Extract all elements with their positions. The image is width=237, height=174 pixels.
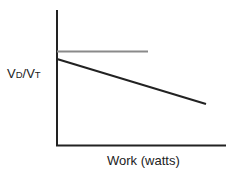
y-axis-label: VD/VT [7,66,41,81]
x-axis-label: Work (watts) [107,153,180,168]
series-decreasing-line [57,59,206,104]
chart-area [0,0,237,174]
